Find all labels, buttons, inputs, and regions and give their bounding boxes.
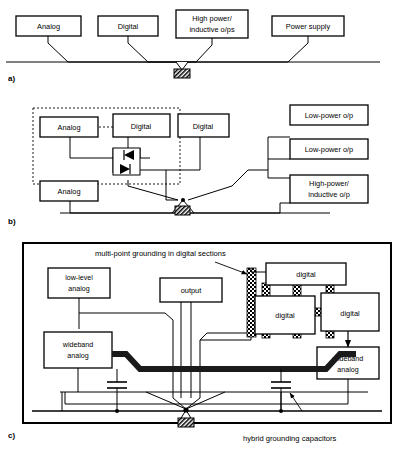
node-cap-left xyxy=(115,409,119,413)
box-b-low-power-op-1-label: Low-power o/p xyxy=(305,111,353,120)
box-c-digital-top[interactable]: digital xyxy=(266,263,346,285)
box-b-low-power-op-1[interactable]: Low-power o/p xyxy=(290,105,368,125)
box-c-digital-right-label: digital xyxy=(340,309,360,318)
box-a-analog-label: Analog xyxy=(37,22,60,31)
box-c-digital-mid-label: digital xyxy=(275,311,295,320)
box-c-digital-mid[interactable]: digital xyxy=(255,296,315,334)
box-c-digital-top-label: digital xyxy=(296,270,316,279)
box-b-high-power-op-label-2: inductive o/p xyxy=(308,190,350,199)
box-a-digital[interactable]: Digital xyxy=(98,16,158,36)
box-a-high-power-label-2: inductive o/ps xyxy=(189,25,234,34)
section-c-label: c) xyxy=(8,431,15,440)
box-c-digital-right[interactable]: digital xyxy=(321,293,379,331)
box-b-digital-left[interactable]: Digital xyxy=(113,114,170,137)
hybrid-grounding-capacitors-note: hybrid grounding capacitors xyxy=(243,434,336,443)
box-c-wideband-right-label-2: analog xyxy=(337,366,358,374)
box-c-output[interactable]: output xyxy=(160,278,222,302)
box-a-power-supply-label: Power supply xyxy=(286,22,331,31)
box-b-analog-bottom[interactable]: Analog xyxy=(40,181,98,201)
box-b-high-power-op-label-1: High-power/ xyxy=(309,179,350,188)
node-cap-right xyxy=(279,409,283,413)
box-c-output-label: output xyxy=(181,286,202,295)
box-b-digital-right-label: Digital xyxy=(193,122,214,131)
box-a-digital-label: Digital xyxy=(118,22,139,31)
box-b-low-power-op-2-label: Low-power o/p xyxy=(305,145,353,154)
box-a-power-supply[interactable]: Power supply xyxy=(272,16,344,36)
box-c-low-level-analog-label-2: analog xyxy=(68,285,89,293)
box-c-wideband-left-label-2: analog xyxy=(67,352,88,360)
box-c-wideband-analog-left[interactable]: wideband analog xyxy=(44,332,112,368)
section-a-label: a) xyxy=(8,74,15,83)
box-b-analog-top-label: Analog xyxy=(57,123,80,132)
grounding-diagram: Analog Digital High power/ inductive o/p… xyxy=(0,0,411,449)
box-a-high-power-label-1: High power/ xyxy=(192,14,232,23)
section-c: multi-point grounding in digital section… xyxy=(8,243,391,443)
box-c-wideband-left-label-1: wideband xyxy=(62,341,93,349)
box-b-low-power-op-2[interactable]: Low-power o/p xyxy=(290,139,368,159)
box-c-low-level-analog-label-1: low-level xyxy=(65,274,93,282)
box-b-digital-right[interactable]: Digital xyxy=(178,114,229,137)
box-b-high-power-op[interactable]: High-power/ inductive o/p xyxy=(290,175,368,203)
box-b-analog-top[interactable]: Analog xyxy=(40,117,98,137)
box-c-low-level-analog[interactable]: low-level analog xyxy=(48,268,110,298)
box-b-analog-bottom-label: Analog xyxy=(57,187,80,196)
figure-root: Analog Digital High power/ inductive o/p… xyxy=(0,0,411,449)
box-b-digital-left-label: Digital xyxy=(131,122,152,131)
back-to-back-diodes[interactable] xyxy=(113,148,140,175)
box-a-analog[interactable]: Analog xyxy=(16,16,81,36)
section-b-label: b) xyxy=(8,217,16,226)
multi-point-grounding-note: multi-point grounding in digital section… xyxy=(95,249,226,258)
box-a-high-power[interactable]: High power/ inductive o/ps xyxy=(176,10,248,38)
